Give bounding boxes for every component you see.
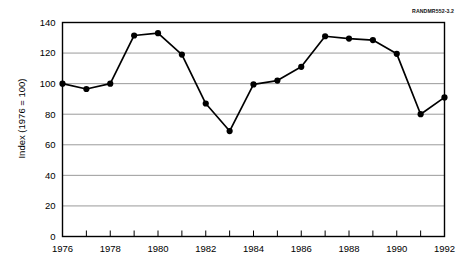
data-point-marker — [227, 128, 233, 134]
data-point-marker — [394, 51, 400, 57]
x-tick-marks-group — [63, 231, 445, 237]
data-point-marker — [418, 111, 424, 117]
x-tick-label: 1990 — [386, 243, 407, 254]
data-point-marker — [370, 37, 376, 43]
figure-container: RANDMR552-3.2 Index (1976 = 100) 0204060… — [0, 0, 468, 272]
gridlines-group — [63, 53, 445, 206]
x-tick-label: 1978 — [100, 243, 121, 254]
data-point-marker — [83, 86, 89, 92]
x-tick-label: 1980 — [147, 243, 168, 254]
x-tick-label: 1992 — [434, 243, 455, 254]
x-tick-label: 1988 — [338, 243, 359, 254]
x-tick-label: 1976 — [52, 243, 73, 254]
data-point-markers-group — [59, 30, 447, 134]
y-tick-label: 0 — [50, 231, 55, 242]
line-chart-plot: 020406080100120140 197619781980198219841… — [0, 0, 468, 272]
data-point-marker — [203, 100, 209, 106]
data-point-marker — [59, 81, 65, 87]
y-tick-label: 80 — [45, 109, 56, 120]
data-point-marker — [322, 33, 328, 39]
data-point-marker — [274, 77, 280, 83]
data-point-marker — [298, 64, 304, 70]
data-point-marker — [179, 52, 185, 58]
data-point-marker — [346, 35, 352, 41]
x-tick-label: 1986 — [291, 243, 312, 254]
y-tick-label: 120 — [40, 47, 56, 58]
y-tick-label: 40 — [45, 170, 56, 181]
data-point-marker — [250, 81, 256, 87]
y-tick-label: 140 — [40, 17, 56, 28]
y-tick-label: 60 — [45, 139, 56, 150]
y-tick-labels-group: 020406080100120140 — [40, 17, 56, 242]
data-point-marker — [441, 94, 447, 100]
y-tick-label: 20 — [45, 200, 56, 211]
y-tick-label: 100 — [40, 78, 56, 89]
data-point-marker — [155, 30, 161, 36]
x-tick-labels-group: 197619781980198219841986198819901992 — [52, 243, 455, 254]
data-point-marker — [131, 32, 137, 38]
data-point-marker — [107, 81, 113, 87]
x-tick-label: 1982 — [195, 243, 216, 254]
plot-frame — [63, 23, 445, 237]
x-tick-label: 1984 — [243, 243, 264, 254]
